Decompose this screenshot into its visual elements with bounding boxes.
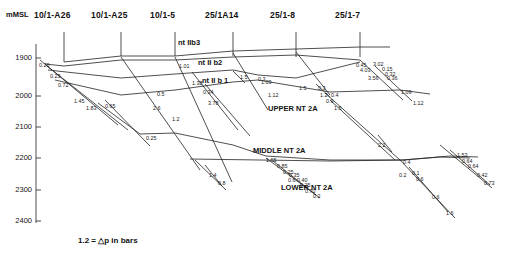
pressure-value: 0.6 (288, 177, 296, 183)
pressure-value: 2.6 (153, 105, 161, 111)
y-tick-1: 2000 (6, 91, 32, 100)
well-header-4: 25/1-8 (270, 10, 295, 20)
formation-label-nt-iib1: nt II b 1 (202, 76, 228, 85)
pressure-value: 1.01 (179, 63, 190, 69)
pressure-value: 1.45 (74, 98, 85, 104)
pressure-value: 0.25 (146, 135, 157, 141)
pressure-value: 0.3 (318, 85, 326, 91)
pressure-value: 0.6 (432, 194, 440, 200)
pressure-value: 0.5 (157, 91, 165, 97)
pressure-value: 0.64 (468, 163, 479, 169)
formation-label-upper-nt2a: UPPER NT 2A (268, 104, 318, 113)
pressure-value: 0.42 (477, 172, 488, 178)
horizon-upper-nt2a (55, 80, 430, 95)
pressure-value: 3.78 (208, 100, 219, 106)
pressure-value: 1.5 (299, 85, 307, 91)
pressure-value: 1.83 (86, 105, 97, 111)
pressure-value: 0.23 (50, 73, 61, 79)
pressure-value: 1.09 (401, 89, 412, 95)
pressure-value: 0.36 (387, 75, 398, 81)
pressure-value: 0.4 (403, 159, 411, 165)
y-tick-3: 2200 (6, 153, 32, 162)
pressure-value: 1.5 (240, 74, 248, 80)
pressure-value: 3.56 (368, 75, 379, 81)
pressure-value: 0.6 (416, 176, 424, 182)
formation-label-middle-nt2a: MIDDLE NT 2A (253, 146, 306, 155)
formation-label-nt-iib2: nt II b2 (198, 58, 222, 67)
formation-label-nt-iib3: nt IIb3 (178, 38, 200, 47)
pressure-value: 1.38 (192, 80, 203, 86)
y-tick-0: 1900 (6, 53, 32, 62)
pressure-value: 0.72 (58, 82, 69, 88)
pressure-value: 0.8 (218, 180, 226, 186)
axis-unit-label: mMSL (6, 10, 29, 19)
figure-caption: 1.2 = △p in bars (78, 236, 138, 245)
pressure-value: 2.2 (378, 142, 386, 148)
pressure-value: 1.6 (446, 210, 454, 216)
pressure-value: 0.73 (484, 180, 495, 186)
pressure-value: 0.65 (105, 103, 116, 109)
well-header-2: 10/1-5 (150, 10, 175, 20)
pressure-value: 1.4 (209, 172, 217, 178)
y-tick-4: 2300 (6, 185, 32, 194)
pressure-value: 1.65 (266, 157, 277, 163)
horizon-nt-IIb3 (64, 47, 390, 62)
pressure-value: 0.26 (39, 62, 50, 68)
well-header-1: 10/1-A25 (91, 10, 128, 20)
pressure-value: 1.12 (268, 92, 279, 98)
well-header-3: 25/1A14 (205, 10, 239, 20)
pressure-value: 1.09 (261, 79, 272, 85)
pressure-value: 1.12 (413, 100, 424, 106)
pressure-value: 1.5 (334, 105, 342, 111)
y-tick-5: 2400 (6, 216, 32, 225)
pressure-value: 0.9 (326, 98, 334, 104)
well-header-0: 10/1-A26 (34, 10, 71, 20)
pressure-value: 0.2 (399, 172, 407, 178)
pressure-value: 0.34 (203, 89, 214, 95)
pressure-value: 4.03 (360, 67, 371, 73)
pressure-value: 0.2 (313, 193, 321, 199)
well-header-5: 25/1-7 (335, 10, 360, 20)
cross-section-figure: mMSL 10/1-A26 10/1-A25 10/1-5 25/1A14 25… (0, 0, 524, 254)
y-tick-2: 2100 (6, 122, 32, 131)
pressure-value: 1.2 (172, 116, 180, 122)
